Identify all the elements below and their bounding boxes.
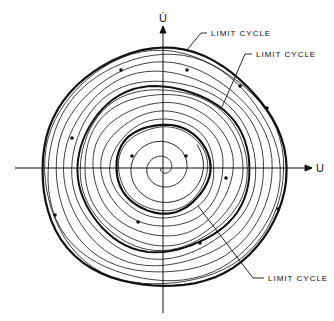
limit-cycle-label: LIMIT CYCLE [211, 29, 271, 38]
inner-spiral [131, 141, 204, 202]
direction-arrow-icon [184, 154, 188, 158]
direction-arrow-icon [224, 176, 228, 180]
direction-arrow-icon [136, 220, 140, 224]
phase-plane-diagram: LIMIT CYCLELIMIT CYCLELIMIT CYCLE U U̇ [0, 0, 334, 321]
u-dot-axis-arrow-icon [160, 26, 166, 33]
direction-arrow-icon [70, 136, 74, 140]
direction-arrow-icon [130, 154, 134, 158]
trajectory-curves [43, 48, 287, 286]
leader-line [198, 206, 264, 278]
limit-cycle-label: LIMIT CYCLE [256, 50, 316, 59]
u-axis-label: U [316, 162, 324, 174]
direction-arrow-icon [185, 68, 189, 72]
axes [15, 26, 312, 313]
direction-arrow-icon [53, 213, 57, 217]
direction-arrow-icon [265, 106, 269, 110]
direction-arrow-icon [276, 207, 280, 211]
direction-arrow-icon [238, 84, 242, 88]
limit-cycle-label: LIMIT CYCLE [268, 274, 328, 283]
u-dot-axis-label: U̇ [159, 12, 167, 24]
leader-line [187, 33, 207, 50]
trajectory-curve [72, 81, 256, 259]
u-axis-arrow-icon [305, 165, 312, 171]
direction-arrow-icon [198, 241, 202, 245]
trajectory-curve [85, 95, 243, 247]
trajectory-curve [56, 62, 272, 272]
direction-arrow-icon [119, 68, 123, 72]
